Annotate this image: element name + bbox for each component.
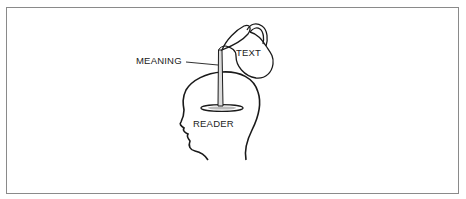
meaning-label: MEANING — [136, 55, 182, 66]
text-label: TEXT — [236, 47, 261, 58]
reader-label: READER — [193, 118, 234, 129]
meaning-leader-line — [186, 62, 218, 65]
figure-illustration — [0, 0, 466, 199]
pouring-stream — [218, 46, 226, 106]
